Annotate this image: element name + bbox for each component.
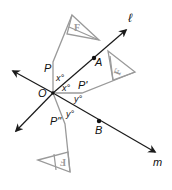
label-p-prime: P': [78, 79, 88, 91]
figure-f-label: F: [74, 22, 80, 33]
diagram-canvas: F F F A B O P P' P" ℓ m x° x° y° y°: [0, 0, 172, 190]
figure-f-double-prime-label: F: [60, 157, 66, 168]
angle-x-lower: x°: [61, 83, 71, 93]
angle-x-upper: x°: [55, 73, 65, 83]
point-o: [51, 91, 55, 95]
label-b: B: [95, 124, 102, 136]
label-o: O: [38, 87, 47, 99]
figure-second-image: F: [38, 93, 70, 172]
figure-f-prime-label: F: [111, 67, 123, 77]
label-a: A: [94, 56, 102, 68]
label-p: P: [44, 62, 52, 74]
label-p-double-prime: P": [50, 115, 62, 127]
angle-y-lower: y°: [65, 109, 75, 119]
point-b: [97, 119, 101, 123]
label-line-l: ℓ: [128, 11, 133, 25]
label-line-m: m: [153, 156, 162, 168]
angle-y-upper: y°: [73, 94, 83, 104]
